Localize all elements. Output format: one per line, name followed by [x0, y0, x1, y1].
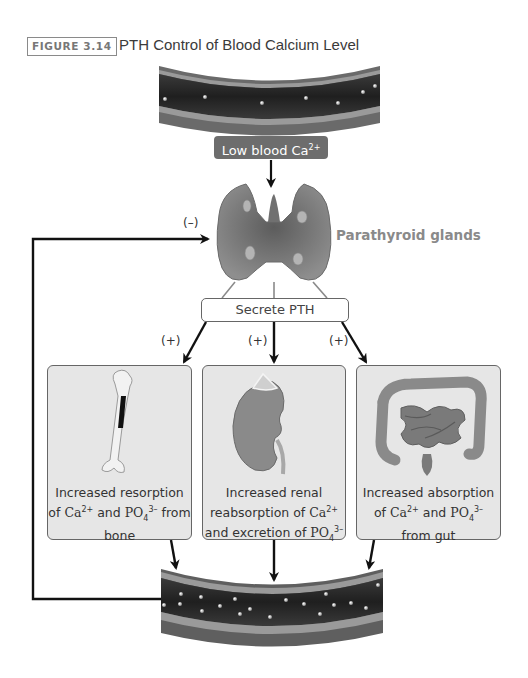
- kidney-text-line3: and excretion of PO43–: [203, 521, 345, 547]
- kidney-text-line2: reabsorption of Ca2+: [203, 501, 345, 521]
- gut-text-line2: of Ca2+ and PO43–: [357, 501, 500, 527]
- bottom-blood-vessel: [161, 569, 383, 647]
- kidney-illustration: [225, 370, 315, 482]
- top-blood-vessel: [159, 66, 380, 136]
- low-blood-calcium-text: Low blood Ca: [222, 143, 309, 158]
- secrete-pth-box: Secrete PTH: [201, 298, 349, 322]
- intestines-illustration: [371, 372, 487, 482]
- parathyroid-glands-label: Parathyroid glands: [336, 227, 481, 243]
- bone-text-line3: bone: [48, 527, 191, 544]
- positive-sign-bone: (+): [161, 334, 180, 348]
- gut-effect-box: Increased absorption of Ca2+ and PO43– f…: [356, 365, 501, 540]
- bone-text-line2: of Ca2+ and PO43– from: [48, 501, 191, 527]
- bone-effect-text: Increased resorption of Ca2+ and PO43– f…: [48, 484, 191, 544]
- gut-text-line1: Increased absorption: [357, 484, 500, 501]
- kidney-effect-text: Increased renal reabsorption of Ca2+ and…: [203, 484, 345, 547]
- femur-bone-illustration: [88, 368, 148, 478]
- positive-sign-kidney: (+): [248, 334, 267, 348]
- kidney-text-line1: Increased renal: [203, 484, 345, 501]
- gut-text-line3: from gut: [357, 527, 500, 544]
- charge-superscript: 2+: [309, 143, 321, 152]
- bone-text-line1: Increased resorption: [48, 484, 191, 501]
- negative-feedback-sign: (–): [183, 216, 198, 230]
- positive-sign-gut: (+): [329, 334, 348, 348]
- parathyroid-glands-illustration: [217, 184, 331, 280]
- gut-effect-text: Increased absorption of Ca2+ and PO43– f…: [357, 484, 500, 544]
- kidney-effect-box: Increased renal reabsorption of Ca2+ and…: [202, 365, 346, 540]
- low-blood-calcium-label: Low blood Ca2+: [214, 136, 328, 159]
- bone-effect-box: Increased resorption of Ca2+ and PO43– f…: [47, 365, 192, 540]
